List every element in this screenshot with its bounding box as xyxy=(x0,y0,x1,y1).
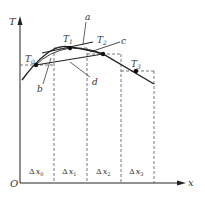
label-a: a xyxy=(85,12,90,22)
line-b-leader xyxy=(43,58,51,84)
label-c: c xyxy=(121,36,126,46)
y-axis-label: T xyxy=(9,16,17,27)
line-a-leader xyxy=(83,22,86,44)
interval-dx2: Δx2 xyxy=(96,167,110,177)
interval-dx3: Δx3 xyxy=(129,167,143,177)
label-t2: T2 xyxy=(97,35,107,46)
line-d xyxy=(36,54,103,65)
y-axis-arrow-icon xyxy=(18,16,23,25)
point-t2 xyxy=(101,52,105,56)
label-t3: T3 xyxy=(131,59,141,70)
label-t1: T1 xyxy=(63,34,73,45)
axes xyxy=(20,22,180,183)
point-t1 xyxy=(68,46,72,50)
interval-dx0: Δx0 xyxy=(29,167,43,177)
x-axis-label: x xyxy=(188,177,194,188)
x-axis-arrow-icon xyxy=(177,181,186,186)
origin-label: O xyxy=(10,178,18,189)
label-t0: T0 xyxy=(25,54,35,65)
interval-dx1: Δx1 xyxy=(62,167,76,177)
label-d: d xyxy=(92,77,98,87)
diagram: T x O a b c d T0 T1 T2 T3 Δx0 Δx1 Δx2 xyxy=(0,0,205,200)
label-b: b xyxy=(37,84,43,94)
